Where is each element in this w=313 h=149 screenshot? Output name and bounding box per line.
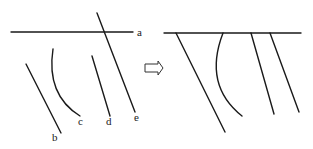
line-d-restored xyxy=(251,33,274,114)
line-b-restored xyxy=(176,33,225,132)
label-c: c xyxy=(78,115,83,127)
label-b: b xyxy=(52,131,58,143)
left-panel: a b c d e xyxy=(11,13,142,143)
line-b xyxy=(26,64,61,133)
transform-arrow-icon xyxy=(145,61,163,75)
line-e xyxy=(97,13,135,112)
right-panel xyxy=(164,33,301,132)
curve-c-restored xyxy=(216,33,242,116)
label-a: a xyxy=(137,26,142,38)
diagram-canvas: a b c d e xyxy=(0,0,313,149)
curve-c xyxy=(52,49,80,116)
line-d xyxy=(92,56,110,116)
label-e: e xyxy=(134,111,139,123)
label-d: d xyxy=(106,115,112,127)
line-e-restored xyxy=(270,33,299,112)
